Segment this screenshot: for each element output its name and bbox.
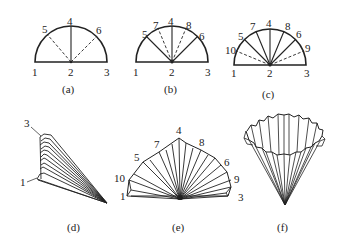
point-8-label: 8 xyxy=(199,136,205,148)
point-10-label: 10 xyxy=(114,172,126,184)
point-2-label: 2 xyxy=(68,66,74,78)
point-5-label: 5 xyxy=(142,28,148,40)
panel-e xyxy=(127,138,231,200)
caption-a: (a) xyxy=(62,83,75,96)
point-1-label: 1 xyxy=(20,176,26,188)
point-3-label: 3 xyxy=(24,117,30,129)
point-4-label: 4 xyxy=(266,17,272,29)
point-5-label: 5 xyxy=(42,23,48,35)
point-6-label: 6 xyxy=(296,28,302,40)
point-6-label: 6 xyxy=(224,156,230,168)
point-9-label: 9 xyxy=(305,42,311,54)
point-3-label: 3 xyxy=(104,66,110,78)
caption-c: (c) xyxy=(262,88,275,101)
point-1-label: 1 xyxy=(133,66,139,78)
point-1-label: 1 xyxy=(32,66,38,78)
point-2-label: 2 xyxy=(267,67,273,79)
panel-f-labels: (f) xyxy=(277,221,288,234)
point-5-label: 5 xyxy=(238,30,244,42)
folding-diagram: 1 2 3 4 5 6 (a) 1 2 3 4 5 6 7 8 (b) xyxy=(0,0,345,243)
caption-d: (d) xyxy=(67,221,80,234)
fan-rays xyxy=(127,138,231,199)
point-3-label: 3 xyxy=(238,191,244,203)
point-6-label: 6 xyxy=(96,24,102,36)
point-7-label: 7 xyxy=(250,20,256,32)
point-2-label: 2 xyxy=(169,66,175,78)
point-3-label: 3 xyxy=(205,66,211,78)
caption-f: (f) xyxy=(277,221,288,234)
point-5-label: 5 xyxy=(134,151,140,163)
point-6-label: 6 xyxy=(199,30,205,42)
point-1-label: 1 xyxy=(120,190,126,202)
point-10-label: 10 xyxy=(225,44,237,56)
caption-e: (e) xyxy=(172,221,185,234)
point-9-label: 9 xyxy=(234,173,240,185)
point-4-label: 4 xyxy=(176,124,182,136)
caption-b: (b) xyxy=(164,83,177,96)
point-7-label: 7 xyxy=(154,138,160,150)
point-8-label: 8 xyxy=(285,20,291,32)
panel-f xyxy=(244,114,325,205)
point-7-label: 7 xyxy=(153,19,159,31)
point-4-label: 4 xyxy=(67,15,73,27)
panel-d xyxy=(27,127,107,203)
point-4-label: 4 xyxy=(168,15,174,27)
point-3-label: 3 xyxy=(304,67,310,79)
point-8-label: 8 xyxy=(186,19,192,31)
point-1-label: 1 xyxy=(231,67,237,79)
